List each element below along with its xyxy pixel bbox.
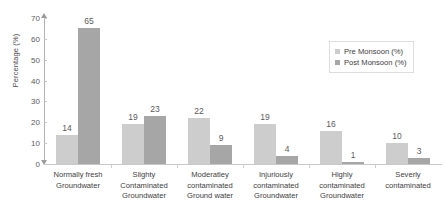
x-axis-category-line: Moderatley (177, 170, 243, 181)
x-axis-category-line: contaminated (177, 181, 243, 192)
x-axis-category-line: Injuriously (243, 170, 309, 181)
bar-chart: Percentage (%) 010203040506070 146519232… (0, 0, 445, 212)
bar[interactable]: 65 (78, 28, 100, 164)
y-axis-tick-label: 10 (20, 139, 40, 148)
bar[interactable]: 19 (122, 124, 144, 164)
bar-group: 194 (243, 18, 309, 164)
legend-item-pre-monsoon[interactable]: Pre Monsoon (%) (335, 46, 406, 57)
y-axis-tick-label: 70 (20, 14, 40, 23)
bar[interactable]: 1 (342, 162, 364, 164)
x-axis-category-line: Contaminated (111, 181, 177, 192)
y-axis-tick-label: 0 (20, 160, 40, 169)
bar-value-label: 19 (260, 112, 269, 122)
y-axis-title: Percentage (%) (11, 15, 20, 107)
bar[interactable]: 14 (56, 135, 78, 164)
x-axis-category-line: contaminated (309, 181, 375, 192)
bar-group: 229 (177, 18, 243, 164)
legend-swatch-icon (335, 60, 340, 65)
legend-label: Pre Monsoon (%) (344, 47, 403, 56)
bar-value-label: 4 (285, 144, 290, 154)
bar[interactable]: 3 (408, 158, 430, 164)
x-axis-tick-mark (111, 164, 112, 168)
legend: Pre Monsoon (%) Post Monsoon (%) (329, 41, 414, 73)
legend-label: Post Monsoon (%) (344, 58, 406, 67)
bar[interactable]: 10 (386, 143, 408, 164)
x-axis-category-label: Severlycontaminated (375, 170, 441, 191)
bar-value-label: 9 (219, 133, 224, 143)
x-axis-tick-mark (309, 164, 310, 168)
x-axis-category-label: InjuriouslycontaminatedGroundwater (243, 170, 309, 202)
y-axis-tick-label: 50 (20, 55, 40, 64)
y-axis-tick-label: 40 (20, 76, 40, 85)
bar-value-label: 23 (150, 104, 159, 114)
bar-value-label: 10 (392, 131, 401, 141)
x-axis-category-line: Normally fresh (45, 170, 111, 181)
x-axis-category-line: Highly (309, 170, 375, 181)
bar-value-label: 19 (128, 112, 137, 122)
x-axis-tick-mark (375, 164, 376, 168)
bar-value-label: 1 (351, 150, 356, 160)
x-axis-category-label: ModeratleycontaminatedGround water (177, 170, 243, 202)
x-axis-category-label: Normally freshGroundwater (45, 170, 111, 191)
x-axis-category-line: Slighty (111, 170, 177, 181)
x-axis-category-line: Severly (375, 170, 441, 181)
y-axis-tick-label: 60 (20, 34, 40, 43)
x-axis-category-label: SlightyContaminatedGroundwater (111, 170, 177, 202)
bar-group: 1465 (45, 18, 111, 164)
legend-swatch-icon (335, 49, 340, 54)
y-axis-tick-label: 20 (20, 118, 40, 127)
bar[interactable]: 9 (210, 145, 232, 164)
x-axis-category-line: Groundwater (243, 191, 309, 202)
bar-value-label: 65 (84, 16, 93, 26)
x-axis-category-line: contaminated (375, 181, 441, 192)
bar-value-label: 3 (417, 146, 422, 156)
x-axis-category-line: Ground water (177, 191, 243, 202)
bar[interactable]: 16 (320, 131, 342, 164)
x-axis-category-line: Groundwater (45, 181, 111, 192)
x-axis-category-line: Groundwater (309, 191, 375, 202)
bar-value-label: 16 (326, 119, 335, 129)
x-axis-category-line: Groundwater (111, 191, 177, 202)
y-axis-tick-label: 30 (20, 97, 40, 106)
x-axis-tick-mark (243, 164, 244, 168)
bar[interactable]: 23 (144, 116, 166, 164)
bar[interactable]: 22 (188, 118, 210, 164)
bar-value-label: 14 (62, 123, 71, 133)
bar-group: 103 (375, 18, 441, 164)
bar-value-label: 22 (194, 106, 203, 116)
x-axis-category-line: contaminated (243, 181, 309, 192)
bar[interactable]: 4 (276, 156, 298, 164)
bar[interactable]: 19 (254, 124, 276, 164)
x-axis-tick-mark (177, 164, 178, 168)
bar-group: 161 (309, 18, 375, 164)
bar-group: 1923 (111, 18, 177, 164)
x-axis-category-label: HighlycontaminatedGroundwater (309, 170, 375, 202)
plot-area: 14651923229194161103 (45, 18, 441, 164)
legend-item-post-monsoon[interactable]: Post Monsoon (%) (335, 57, 406, 68)
